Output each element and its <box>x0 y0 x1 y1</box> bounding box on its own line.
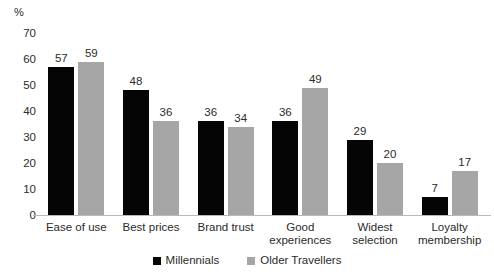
bar-value-label: 49 <box>302 73 328 85</box>
y-axis-tick-50: 50 <box>8 79 36 91</box>
y-axis-unit-label: % <box>14 6 24 18</box>
category-label-brand-trust: Brand trust <box>188 221 263 234</box>
bar-value-label: 7 <box>422 182 448 194</box>
bar-value-label: 48 <box>123 75 149 87</box>
bar-chart: % 706050403020100 Ease of useBest prices… <box>0 0 494 276</box>
bar-value-label: 36 <box>272 106 298 118</box>
category-label-line: Loyalty <box>412 221 487 234</box>
legend-item-older-travellers[interactable]: Older Travellers <box>247 254 341 267</box>
bar-value-label: 57 <box>48 52 74 64</box>
legend-swatch-icon <box>247 257 255 265</box>
y-axis-tick-40: 40 <box>8 105 36 117</box>
bar-value-label: 20 <box>377 148 403 160</box>
category-label-line: Brand trust <box>188 221 263 234</box>
category-label-ease-of-use: Ease of use <box>39 221 114 234</box>
bar-millennials-widest-selection <box>347 140 373 215</box>
bar-value-label: 29 <box>347 125 373 137</box>
bar-millennials-ease-of-use <box>48 67 74 215</box>
category-label-good-experiences: Goodexperiences <box>263 221 338 247</box>
legend-label: Millennials <box>166 254 220 267</box>
bar-millennials-best-prices <box>123 90 149 215</box>
bar-value-label: 36 <box>198 106 224 118</box>
bar-older-travellers-best-prices <box>153 121 179 215</box>
y-axis-tick-30: 30 <box>8 131 36 143</box>
x-axis-line <box>33 215 491 216</box>
bar-value-label: 36 <box>153 106 179 118</box>
bar-millennials-loyalty-membership <box>422 197 448 215</box>
legend-label: Older Travellers <box>260 254 341 267</box>
legend-item-millennials[interactable]: Millennials <box>153 254 220 267</box>
bar-millennials-good-experiences <box>272 121 298 215</box>
bar-millennials-brand-trust <box>198 121 224 215</box>
y-axis-tick-20: 20 <box>8 157 36 169</box>
bar-value-label: 17 <box>452 156 478 168</box>
bar-older-travellers-widest-selection <box>377 163 403 215</box>
category-label-line: membership <box>412 234 487 247</box>
bar-value-label: 59 <box>78 47 104 59</box>
bar-older-travellers-loyalty-membership <box>452 171 478 215</box>
category-label-line: Widest <box>338 221 413 234</box>
chart-legend: MillennialsOlder Travellers <box>0 254 494 267</box>
bar-value-label: 34 <box>228 112 254 124</box>
category-label-line: experiences <box>263 234 338 247</box>
bar-older-travellers-good-experiences <box>302 88 328 215</box>
y-axis-tick-10: 10 <box>8 183 36 195</box>
category-label-line: selection <box>338 234 413 247</box>
y-axis-tick-70: 70 <box>8 27 36 39</box>
bar-older-travellers-ease-of-use <box>78 62 104 215</box>
y-axis-tick-60: 60 <box>8 53 36 65</box>
category-label-line: Best prices <box>114 221 189 234</box>
category-label-best-prices: Best prices <box>114 221 189 234</box>
category-label-line: Ease of use <box>39 221 114 234</box>
category-label-loyalty-membership: Loyaltymembership <box>412 221 487 247</box>
category-label-line: Good <box>263 221 338 234</box>
legend-swatch-icon <box>153 257 161 265</box>
category-label-widest-selection: Widestselection <box>338 221 413 247</box>
y-axis-tick-0: 0 <box>8 209 36 221</box>
bar-older-travellers-brand-trust <box>228 127 254 215</box>
